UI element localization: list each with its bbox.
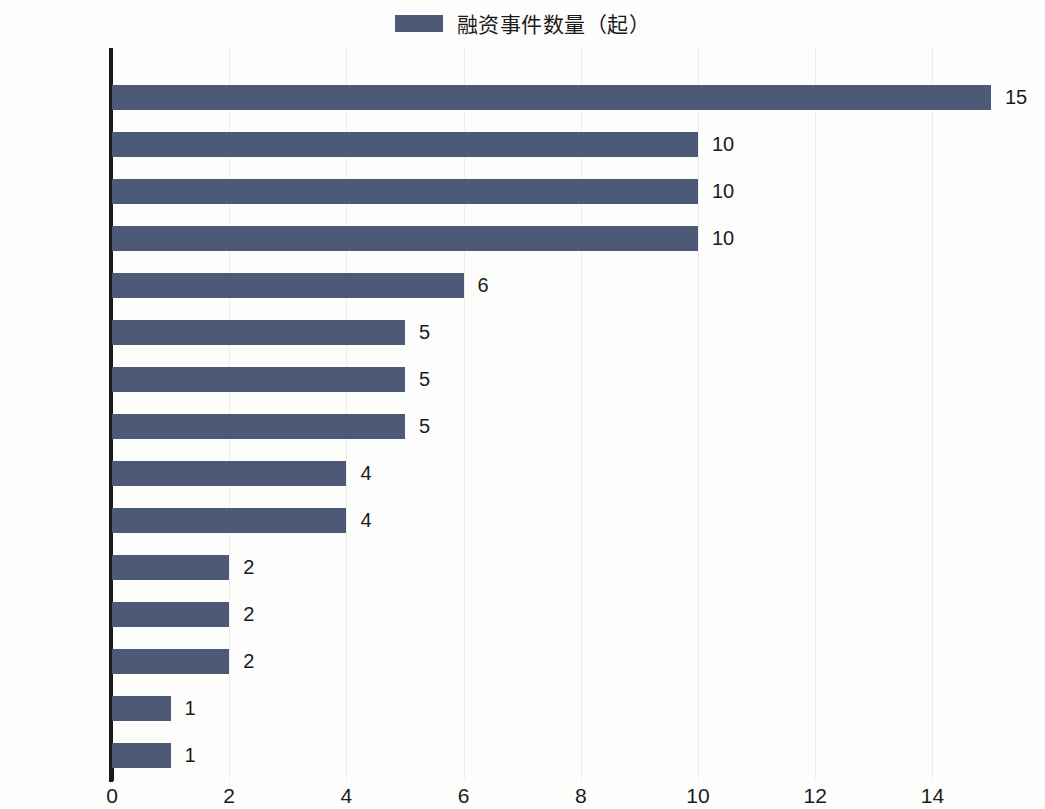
bar xyxy=(112,226,698,251)
x-axis-tick-mark xyxy=(111,768,114,781)
bar-row: 2杨浦区 xyxy=(112,638,1022,685)
bar-row: 1崇明区 xyxy=(112,732,1022,779)
bar-value-label: 4 xyxy=(360,460,371,486)
bar xyxy=(112,461,346,486)
bar-row: 4宝山区 xyxy=(112,497,1022,544)
bar-value-label: 5 xyxy=(419,319,430,345)
bar-row: 5徐汇区 xyxy=(112,403,1022,450)
x-axis-tick-label: 10 xyxy=(686,784,709,808)
x-axis-tick-label: 6 xyxy=(458,784,470,808)
bar-value-label: 10 xyxy=(712,131,734,157)
bar-value-label: 2 xyxy=(243,601,254,627)
plot-area: 15奉贤区10闵行区10浦东新区10嘉定区6普陀区5长宁区5金山区5徐汇区4松江… xyxy=(112,48,1022,780)
bar xyxy=(112,273,464,298)
bar-value-label: 6 xyxy=(478,272,489,298)
bar-value-label: 1 xyxy=(185,742,196,768)
bar-value-label: 4 xyxy=(360,507,371,533)
chart-legend: 融资事件数量（起） xyxy=(0,8,1045,38)
bar-row: 4松江区 xyxy=(112,450,1022,497)
bar-value-label: 5 xyxy=(419,366,430,392)
bar-value-label: 15 xyxy=(1005,84,1027,110)
x-axis-tick-label: 2 xyxy=(223,784,235,808)
bar-row: 10嘉定区 xyxy=(112,215,1022,262)
bar xyxy=(112,85,991,110)
x-axis-tick-label: 14 xyxy=(921,784,944,808)
bar xyxy=(112,132,698,157)
bar-value-label: 1 xyxy=(185,695,196,721)
bar xyxy=(112,555,229,580)
bar-row: 10闵行区 xyxy=(112,121,1022,168)
bar-row: 1虹口区 xyxy=(112,685,1022,732)
bar-value-label: 5 xyxy=(419,413,430,439)
bar-row: 15奉贤区 xyxy=(112,74,1022,121)
bar-row: 5金山区 xyxy=(112,356,1022,403)
bar xyxy=(112,508,346,533)
bar xyxy=(112,602,229,627)
bar-value-label: 10 xyxy=(712,225,734,251)
bar-value-label: 10 xyxy=(712,178,734,204)
x-axis-tick-label: 0 xyxy=(106,784,118,808)
bar-row: 5长宁区 xyxy=(112,309,1022,356)
bar-row: 6普陀区 xyxy=(112,262,1022,309)
legend-color-swatch xyxy=(395,15,443,32)
bar xyxy=(112,179,698,204)
bar-chart-figure: 融资事件数量（起） 15奉贤区10闵行区10浦东新区10嘉定区6普陀区5长宁区5… xyxy=(0,0,1045,809)
bar xyxy=(112,743,171,768)
bar xyxy=(112,696,171,721)
bar xyxy=(112,414,405,439)
bar xyxy=(112,367,405,392)
x-axis-tick-label: 4 xyxy=(341,784,353,808)
bar-value-label: 2 xyxy=(243,554,254,580)
bar-row: 2青浦区 xyxy=(112,591,1022,638)
bar xyxy=(112,649,229,674)
bar xyxy=(112,320,405,345)
legend-label: 融资事件数量（起） xyxy=(457,8,651,38)
bar-value-label: 2 xyxy=(243,648,254,674)
x-axis-tick-label: 8 xyxy=(575,784,587,808)
bar-row: 10浦东新区 xyxy=(112,168,1022,215)
bar-row: 2黄浦区 xyxy=(112,544,1022,591)
x-axis-tick-label: 12 xyxy=(804,784,827,808)
